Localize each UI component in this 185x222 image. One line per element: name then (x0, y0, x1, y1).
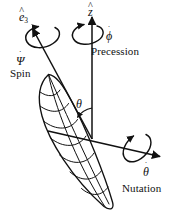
z-hat-symbol: ^z (88, 6, 93, 18)
theta-dot-symbol: ˙θ (143, 166, 149, 178)
label-theta-dot-symbol: ˙θ (143, 166, 149, 178)
spin-curl (26, 27, 60, 48)
dot-accent-icon: ˙ (19, 50, 22, 59)
nutation-axis (48, 131, 160, 157)
dot-accent-icon: ˙ (144, 161, 147, 170)
label-phi-dot-symbol: ˙ϕ (106, 30, 112, 42)
spinning-top-body (39, 75, 113, 209)
label-theta-angle: θ (76, 98, 82, 110)
e3-subscript: 3 (24, 16, 28, 25)
latitude-arc (51, 136, 87, 145)
meridian-line (49, 75, 110, 205)
hat-accent-icon: ^ (19, 6, 24, 16)
label-psi-dot-symbol: ˙Ψ (16, 55, 24, 67)
precession-rotation-arrow (72, 25, 103, 45)
label-z-axis: ^z (88, 6, 93, 18)
label-precession: Precession (91, 46, 139, 57)
label-nutation: Nutation (122, 183, 161, 194)
body-outline (39, 75, 113, 209)
psi-dot-symbol: ˙Ψ (16, 55, 24, 67)
nutation-rotation-arrow (123, 135, 151, 162)
e3-hat-symbol: ^e (19, 11, 24, 23)
hat-accent-icon: ^ (88, 1, 93, 11)
dot-accent-icon: ˙ (108, 25, 111, 34)
spin-rotation-arrow (26, 27, 60, 48)
label-e3-axis: ^e3 (19, 11, 28, 24)
euler-angle-diagram: ^e3 ^z ˙Ψ Spin ˙ϕ Precession ˙θ Nutation… (0, 0, 185, 222)
body-meridian-lines (49, 75, 110, 208)
label-spin: Spin (10, 68, 31, 79)
precession-curl (72, 25, 103, 45)
phi-dot-symbol: ˙ϕ (106, 30, 112, 42)
nutation-curl (123, 135, 151, 162)
line-of-nodes-axis-line (48, 131, 160, 157)
